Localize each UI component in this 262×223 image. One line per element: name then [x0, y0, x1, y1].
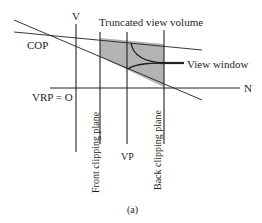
- v-axis-label: V: [72, 10, 80, 22]
- view-volume-diagram: V Truncated view volume COP View window …: [0, 0, 262, 223]
- truncated-view-volume-label: Truncated view volume: [99, 16, 203, 28]
- vrp-label: VRP = O: [32, 91, 73, 103]
- back-clipping-plane-label: Back clipping plane: [152, 109, 163, 190]
- n-axis-label: N: [244, 82, 252, 94]
- figure-caption: (a): [127, 204, 138, 216]
- vp-label: VP: [121, 151, 134, 162]
- front-clipping-plane-label: Front clipping plane: [90, 111, 101, 193]
- cop-label: COP: [27, 39, 48, 51]
- view-window-label: View window: [187, 58, 248, 70]
